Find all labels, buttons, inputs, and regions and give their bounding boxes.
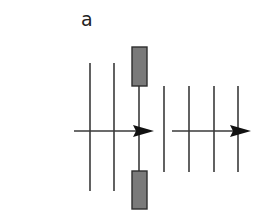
left-line-group (74, 47, 154, 209)
top-block (132, 47, 147, 86)
bottom-block (132, 171, 147, 209)
diagram-figure: a (0, 0, 262, 215)
right-arrowhead-icon (230, 125, 251, 137)
left-arrowhead-icon (133, 125, 154, 137)
diagram-canvas (0, 0, 262, 215)
right-line-group (164, 86, 251, 172)
